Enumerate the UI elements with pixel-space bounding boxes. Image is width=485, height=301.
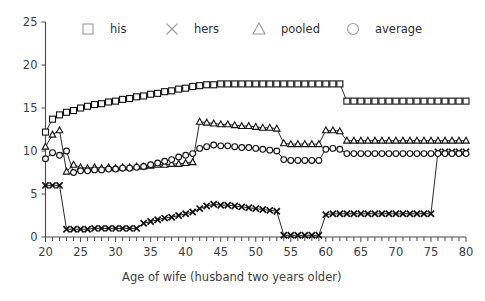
y-tick-label: 25 bbox=[23, 15, 38, 29]
marker-triangle bbox=[386, 137, 392, 143]
legend-square-icon bbox=[83, 24, 93, 34]
marker-circle bbox=[253, 146, 259, 152]
marker-circle bbox=[169, 157, 175, 163]
marker-square bbox=[316, 81, 322, 87]
marker-square bbox=[414, 98, 420, 104]
chart-canvas: hisherspooledaverage 0510152025202530354… bbox=[0, 0, 485, 301]
marker-circle bbox=[57, 152, 63, 158]
marker-triangle bbox=[49, 131, 55, 137]
marker-circle bbox=[330, 146, 336, 152]
marker-square bbox=[232, 81, 238, 87]
marker-circle bbox=[344, 151, 350, 157]
marker-triangle bbox=[42, 143, 48, 149]
marker-circle bbox=[141, 164, 147, 170]
y-tick-label: 15 bbox=[23, 101, 38, 115]
marker-triangle bbox=[407, 137, 413, 143]
x-tick-label: 30 bbox=[108, 245, 123, 259]
marker-circle bbox=[64, 148, 70, 154]
marker-circle bbox=[393, 151, 399, 157]
marker-square bbox=[302, 81, 308, 87]
marker-circle bbox=[71, 170, 77, 176]
marker-triangle bbox=[196, 118, 202, 124]
marker-triangle bbox=[449, 137, 455, 143]
marker-circle bbox=[309, 158, 315, 164]
x-tick-label: 40 bbox=[178, 245, 193, 259]
marker-triangle bbox=[316, 141, 322, 147]
x-tick-label: 60 bbox=[319, 245, 334, 259]
series-hers bbox=[42, 149, 469, 239]
marker-square bbox=[141, 93, 147, 99]
x-tick-label: 25 bbox=[73, 245, 88, 259]
x-tick-label: 80 bbox=[459, 245, 474, 259]
marker-circle bbox=[456, 151, 462, 157]
marker-triangle bbox=[372, 137, 378, 143]
marker-circle bbox=[302, 158, 308, 164]
marker-triangle bbox=[414, 137, 420, 143]
marker-square bbox=[267, 81, 273, 87]
marker-square bbox=[260, 81, 266, 87]
marker-square bbox=[456, 98, 462, 104]
marker-triangle bbox=[56, 127, 62, 133]
marker-circle bbox=[295, 158, 301, 164]
marker-triangle bbox=[267, 124, 273, 130]
legend-item-his: his bbox=[83, 22, 126, 36]
marker-triangle bbox=[189, 159, 195, 165]
legend-item-average: average bbox=[348, 22, 423, 36]
marker-square bbox=[442, 98, 448, 104]
marker-square bbox=[85, 103, 91, 109]
marker-circle bbox=[379, 151, 385, 157]
legend-label-hers: hers bbox=[194, 22, 219, 36]
chart-axes bbox=[42, 22, 467, 242]
marker-square bbox=[372, 98, 378, 104]
marker-circle bbox=[428, 151, 434, 157]
marker-triangle bbox=[330, 127, 336, 133]
marker-triangle bbox=[379, 137, 385, 143]
marker-triangle bbox=[281, 140, 287, 146]
marker-square bbox=[190, 84, 196, 90]
marker-square bbox=[99, 101, 105, 107]
marker-circle bbox=[442, 151, 448, 157]
marker-circle bbox=[358, 151, 364, 157]
marker-triangle bbox=[323, 127, 329, 133]
marker-square bbox=[246, 81, 252, 87]
y-tick-label: 5 bbox=[30, 187, 37, 201]
marker-square bbox=[393, 98, 399, 104]
x-tick-label: 65 bbox=[354, 245, 369, 259]
marker-square bbox=[211, 82, 217, 88]
marker-triangle bbox=[456, 137, 462, 143]
marker-square bbox=[64, 109, 70, 115]
marker-circle bbox=[148, 162, 154, 168]
marker-square bbox=[288, 81, 294, 87]
marker-circle bbox=[176, 154, 182, 160]
marker-square bbox=[218, 81, 224, 87]
marker-triangle bbox=[302, 141, 308, 147]
marker-circle bbox=[260, 146, 266, 152]
marker-x bbox=[197, 206, 203, 212]
x-tick-label: 55 bbox=[283, 245, 298, 259]
marker-circle bbox=[50, 150, 56, 156]
marker-circle bbox=[155, 160, 161, 166]
marker-square bbox=[162, 89, 168, 95]
marker-square bbox=[309, 81, 315, 87]
marker-circle bbox=[316, 158, 322, 164]
marker-x bbox=[155, 217, 161, 223]
marker-square bbox=[358, 98, 364, 104]
marker-circle bbox=[190, 151, 196, 157]
marker-square bbox=[106, 99, 112, 105]
legend-triangle-icon bbox=[253, 23, 265, 34]
chart-series bbox=[42, 81, 469, 238]
marker-square bbox=[407, 98, 413, 104]
marker-square bbox=[330, 81, 336, 87]
marker-square bbox=[421, 98, 427, 104]
marker-circle bbox=[386, 151, 392, 157]
y-tick-label: 20 bbox=[23, 58, 38, 72]
marker-triangle bbox=[309, 141, 315, 147]
marker-circle bbox=[421, 151, 427, 157]
marker-triangle bbox=[428, 137, 434, 143]
marker-circle bbox=[407, 151, 413, 157]
marker-square bbox=[400, 98, 406, 104]
legend-label-his: his bbox=[110, 22, 126, 36]
marker-square bbox=[337, 81, 343, 87]
marker-triangle bbox=[245, 123, 251, 129]
marker-circle bbox=[288, 158, 294, 164]
